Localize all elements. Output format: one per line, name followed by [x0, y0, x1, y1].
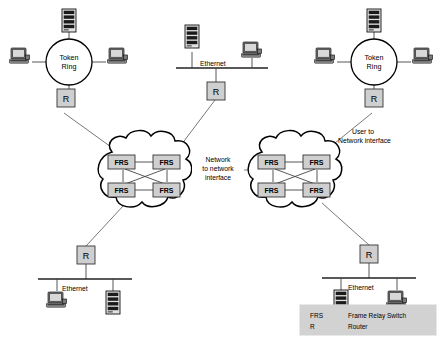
frs-left-bl-label: FRS: [115, 187, 129, 194]
router-eth-br-label: R: [366, 250, 373, 260]
ethernet-br-label: Ethernet: [348, 284, 374, 291]
token-ring-right-label-line1: Token: [364, 53, 383, 62]
frs-right-tr-label: FRS: [310, 159, 324, 166]
token-ring-left-label-line1: Token: [59, 53, 78, 62]
legend-row-0-meaning: Frame Relay Switch: [348, 312, 407, 320]
router-tr-left-label: R: [63, 94, 70, 104]
frs-right-tl-label: FRS: [265, 159, 279, 166]
nni-label-line3: interface: [205, 174, 231, 181]
legend-background: [300, 305, 436, 335]
uni-label-line2: Network interface: [338, 137, 391, 144]
token-ring-right-label-line2: Ring: [367, 62, 382, 71]
router-eth-bl-label: R: [83, 251, 90, 261]
server-eth-bl: [106, 291, 120, 314]
server-eth-top: [185, 25, 199, 48]
router-eth-top-label: R: [213, 87, 220, 97]
frs-right-bl-label: FRS: [265, 187, 279, 194]
frs-left-tl-label: FRS: [115, 159, 129, 166]
frame-relay-cloud-right: FRS FRS FRS FRS: [248, 131, 342, 207]
server-tr-right: [367, 9, 381, 32]
nni-label-line2: to network: [202, 165, 234, 172]
server-tr-left: [62, 9, 76, 32]
frs-left-br-label: FRS: [160, 187, 174, 194]
frs-right-br-label: FRS: [310, 187, 324, 194]
legend-row-0-abbr: FRS: [310, 312, 324, 319]
token-ring-left-label-line2: Ring: [62, 62, 77, 71]
uni-label-line1: User to: [352, 128, 374, 135]
frame-relay-cloud-left: FRS FRS FRS FRS: [98, 131, 192, 207]
ethernet-bl-label: Ethernet: [62, 285, 88, 292]
annotation-network-to-network-interface: Network to network interface: [192, 155, 244, 181]
legend-row-1-abbr: R: [310, 323, 315, 330]
nni-label-line1: Network: [206, 156, 232, 163]
ethernet-top-label: Ethernet: [200, 60, 226, 67]
legend-row-1-meaning: Router: [348, 323, 368, 330]
frs-left-tr-label: FRS: [160, 159, 174, 166]
network-diagram: Token Ring R Ethernet R: [0, 0, 443, 356]
legend: FRS Frame Relay Switch R Router: [300, 305, 436, 335]
router-tr-right-label: R: [371, 94, 378, 104]
